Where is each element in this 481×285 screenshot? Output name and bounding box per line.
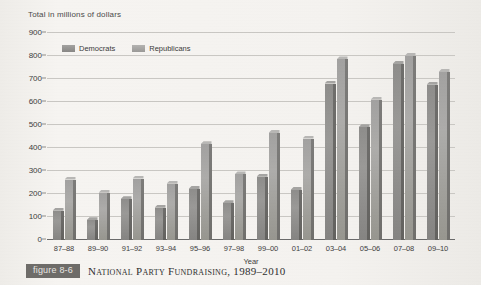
y-tick-mark-900 [42,32,46,33]
bar-side-face [107,193,110,240]
bar-group: 95–96 [183,33,217,240]
bar-rep-01-02 [303,136,314,240]
bar-dem-95-96 [189,186,200,240]
bar-side-face [401,64,404,240]
figure-number-badge: figure 8-6 [26,264,80,278]
bar-front-face [189,189,197,240]
bar-dem-99-00 [257,174,268,240]
bar-front-face [201,144,209,240]
bar-group: 03–04 [319,33,353,240]
y-tick-mark-100 [42,216,46,217]
x-tick-label-03-04: 03–04 [326,244,346,253]
y-tick-mark-0 [42,239,46,240]
bar-front-face [303,139,311,240]
bar-rep-07-08 [405,53,416,240]
y-tick-mark-700 [42,78,46,79]
bar-side-face [197,189,200,240]
bar-dem-93-94 [155,205,166,240]
bar-side-face [299,190,302,240]
bar-front-face [99,193,107,240]
bar-group: 89–90 [81,33,115,240]
bar-front-face [167,184,175,240]
bar-front-face [53,211,61,240]
bar-dem-03-04 [325,81,336,240]
y-tick-mark-200 [42,193,46,194]
bar-groups: 87–8889–9091–9293–9495–9697–9899–0001–02… [47,33,455,240]
bar-side-face [277,133,280,240]
bar-side-face [129,199,132,240]
bar-side-face [333,84,336,240]
bar-rep-93-94 [167,181,178,240]
bar-group: 01–02 [285,33,319,240]
x-tick-label-95-96: 95–96 [190,244,210,253]
bar-side-face [231,203,234,240]
bar-front-face [235,174,243,240]
x-tick-label-91-92: 91–92 [122,244,142,253]
x-tick-label-87-88: 87–88 [54,244,74,253]
bar-side-face [345,59,348,240]
bar-rep-09-10 [439,69,450,240]
bar-front-face [393,64,401,240]
y-tick-mark-300 [42,170,46,171]
x-tick-label-99-00: 99–00 [258,244,278,253]
y-tick-label-900: 900 [29,28,42,37]
bar-side-face [163,208,166,240]
bar-group: 97–98 [217,33,251,240]
bar-side-face [265,177,268,240]
bar-rep-03-04 [337,56,348,240]
bar-rep-91-92 [133,176,144,240]
bar-front-face [65,180,73,240]
y-tick-mark-800 [42,55,46,56]
bar-group: 05–06 [353,33,387,240]
bar-rep-97-98 [235,171,246,240]
bar-dem-05-06 [359,124,370,240]
bar-front-face [269,133,277,240]
bar-group: 09–10 [421,33,455,240]
bar-rep-87-88 [65,177,76,240]
bar-side-face [413,56,416,240]
chart-plot-area: 9008007006005004003002001000 87–8889–909… [47,33,455,240]
x-tick-label-05-06: 05–06 [360,244,380,253]
x-tick-label-07-08: 07–08 [394,244,414,253]
y-tick-mark-600 [42,101,46,102]
bar-front-face [371,100,379,240]
bar-side-face [243,174,246,240]
y-tick-label-100: 100 [29,212,42,221]
figure-caption: figure 8-6 National Party Fundraising, 1… [26,264,286,278]
bar-front-face [257,177,265,240]
x-tick-label-93-94: 93–94 [156,244,176,253]
bar-front-face [291,190,299,240]
bar-side-face [73,180,76,240]
bar-side-face [435,85,438,240]
bar-rep-95-96 [201,141,212,240]
bar-front-face [405,56,413,240]
x-tick-label-89-90: 89–90 [88,244,108,253]
x-tick-label-97-98: 97–98 [224,244,244,253]
bar-group: 93–94 [149,33,183,240]
y-tick-label-500: 500 [29,120,42,129]
bar-side-face [379,100,382,240]
bar-rep-99-00 [269,130,280,240]
bar-front-face [155,208,163,240]
bar-front-face [133,179,141,240]
x-tick-label-09-10: 09–10 [428,244,448,253]
bar-side-face [95,220,98,240]
bar-front-face [427,85,435,240]
y-tick-label-600: 600 [29,97,42,106]
bar-dem-91-92 [121,196,132,240]
bar-front-face [223,203,231,240]
bar-side-face [209,144,212,240]
bar-front-face [121,199,129,240]
bar-side-face [61,211,64,240]
bar-front-face [337,59,345,240]
bar-side-face [311,139,314,240]
bar-group: 07–08 [387,33,421,240]
bar-front-face [325,84,333,240]
bar-dem-89-90 [87,217,98,240]
bar-group: 99–00 [251,33,285,240]
y-tick-mark-500 [42,124,46,125]
y-tick-label-800: 800 [29,51,42,60]
bar-group: 91–92 [115,33,149,240]
y-tick-mark-400 [42,147,46,148]
bar-rep-89-90 [99,190,110,240]
